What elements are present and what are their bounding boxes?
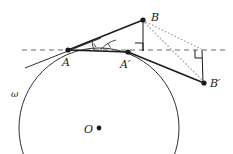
label-point-B: B <box>151 12 159 23</box>
point-O <box>97 126 102 131</box>
label-point-A-prime: A′ <box>120 59 130 70</box>
segment-Aprime-to-Bprime <box>128 52 204 83</box>
label-point-A: A <box>62 57 70 68</box>
label-point-O: O <box>84 124 93 135</box>
perpendicular-from-Bprime <box>202 50 203 82</box>
label-point-B-prime: B′ <box>210 78 221 89</box>
angle-tick-at-A <box>94 44 97 48</box>
label-circle-omega: ω <box>11 90 18 99</box>
point-A <box>65 47 70 52</box>
point-B <box>140 17 145 22</box>
right-angle-mark-at-foot-of-Bprime <box>195 50 202 58</box>
geometry-figure: A A′ B B′ O ω <box>0 0 233 154</box>
dotted-segment-B-to-foot-of-Bprime <box>146 22 201 49</box>
dotted-segment-B-to-Bprime <box>145 23 203 81</box>
angle-tick-at-Aprime <box>108 44 111 48</box>
point-B-prime <box>201 80 206 85</box>
circle-omega <box>19 48 179 154</box>
figure-canvas <box>0 0 233 154</box>
point-A-prime <box>125 49 130 54</box>
